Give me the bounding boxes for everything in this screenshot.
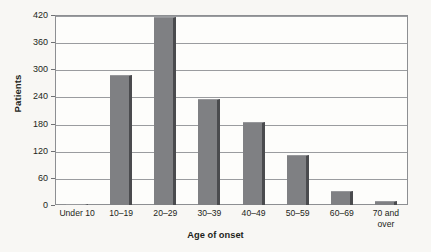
bar[interactable] bbox=[154, 17, 176, 205]
x-tick-label: 20–29 bbox=[143, 208, 187, 219]
y-tick-label: 300 bbox=[14, 65, 48, 74]
y-tick-label: 240 bbox=[14, 92, 48, 101]
x-tick-label: 70 andover bbox=[364, 208, 408, 229]
x-tick-label-line: 70 and bbox=[364, 208, 408, 219]
x-tick-label-line: 60–69 bbox=[320, 208, 364, 219]
bar[interactable] bbox=[375, 201, 397, 205]
bar-slot bbox=[287, 15, 309, 205]
bar-slot bbox=[243, 15, 265, 205]
x-tick-label: 30–39 bbox=[187, 208, 231, 219]
x-tick-label: 60–69 bbox=[320, 208, 364, 219]
bar-slot bbox=[154, 15, 176, 205]
y-tick-label: 120 bbox=[14, 146, 48, 155]
y-tick-mark bbox=[51, 205, 55, 206]
y-tick-label: 360 bbox=[14, 38, 48, 47]
x-tick-label-line: Under 10 bbox=[55, 208, 99, 219]
bars-layer bbox=[55, 15, 408, 205]
x-tick-label-line: 20–29 bbox=[143, 208, 187, 219]
y-tick-label: 420 bbox=[14, 11, 48, 20]
x-tick-label-line: over bbox=[364, 219, 408, 230]
bar-slot bbox=[198, 15, 220, 205]
x-axis-title: Age of onset bbox=[0, 230, 431, 240]
bar-slot bbox=[331, 15, 353, 205]
x-tick-label-line: 40–49 bbox=[232, 208, 276, 219]
bar[interactable] bbox=[66, 204, 88, 206]
bar[interactable] bbox=[287, 155, 309, 205]
bar[interactable] bbox=[243, 122, 265, 205]
x-tick-label: 10–19 bbox=[99, 208, 143, 219]
y-tick-label: 0 bbox=[14, 201, 48, 210]
x-tick-label-line: 30–39 bbox=[187, 208, 231, 219]
x-tick-label-line: 10–19 bbox=[99, 208, 143, 219]
bar-slot bbox=[375, 15, 397, 205]
y-tick-label: 60 bbox=[14, 173, 48, 182]
x-tick-label-line: 50–59 bbox=[276, 208, 320, 219]
x-tick-label: 40–49 bbox=[232, 208, 276, 219]
bar-slot bbox=[110, 15, 132, 205]
y-tick-label: 180 bbox=[14, 119, 48, 128]
x-tick-label: Under 10 bbox=[55, 208, 99, 219]
bar-chart: Patients 060120180240300360420 Under 101… bbox=[0, 0, 431, 252]
bar[interactable] bbox=[110, 75, 132, 205]
x-tick-label: 50–59 bbox=[276, 208, 320, 219]
bar-slot bbox=[66, 15, 88, 205]
bar[interactable] bbox=[331, 191, 353, 205]
bar[interactable] bbox=[198, 99, 220, 205]
